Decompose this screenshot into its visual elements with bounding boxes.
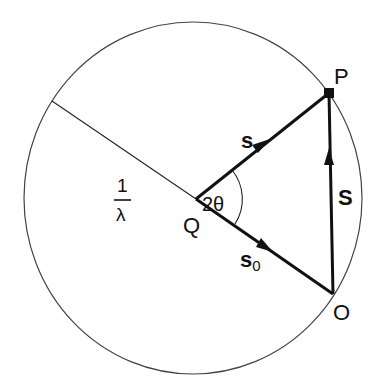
label-O: O <box>333 300 350 325</box>
label-radius-numerator: 1 <box>117 175 128 196</box>
vector-S-line <box>329 93 333 294</box>
vector-S-arrowhead <box>324 148 334 165</box>
label-vector-S: S <box>338 185 353 210</box>
reflection-circle <box>24 22 362 374</box>
label-vector-s: s <box>241 128 253 153</box>
label-radius-denominator: λ <box>116 204 126 225</box>
label-Q: Q <box>183 213 200 238</box>
vector-s0-arrowhead <box>256 238 273 252</box>
label-vector-s0: s0 <box>240 247 261 274</box>
label-angle-2theta: 2θ <box>202 193 224 215</box>
label-P: P <box>334 64 349 89</box>
angle-arc <box>232 170 242 224</box>
point-P-marker <box>324 88 334 98</box>
ewald-sphere-diagram: P O Q 2θ s s0 S 1 λ <box>0 0 378 392</box>
label-vector-s0-subscript: 0 <box>252 257 260 274</box>
